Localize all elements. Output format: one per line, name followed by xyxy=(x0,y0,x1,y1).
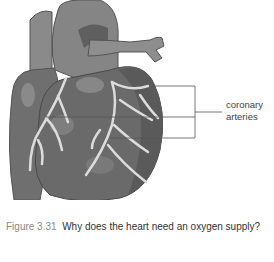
caption-text: Why does the heart need an oxygen supply… xyxy=(62,221,260,232)
figure-number: Figure 3.31 xyxy=(6,221,57,232)
label-line-2: arteries xyxy=(226,111,263,123)
label-line-1: coronary xyxy=(226,99,263,111)
figure-caption: Figure 3.31 Why does the heart need an o… xyxy=(6,220,268,233)
coronary-arteries-label: coronary arteries xyxy=(226,99,263,123)
